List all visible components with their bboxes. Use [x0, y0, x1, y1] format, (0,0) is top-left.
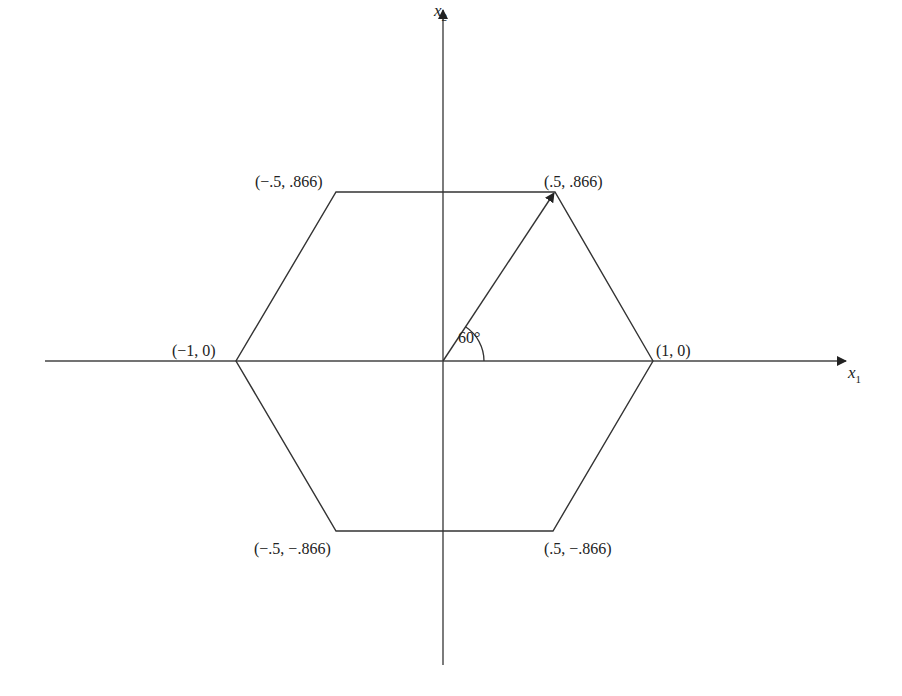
- vertex-label-05-0866: (.5, .866): [544, 173, 603, 191]
- vertex-label-neg05-0866: (−.5, .866): [255, 173, 323, 191]
- vertex-label-neg05-neg0866: (−.5, −.866): [254, 540, 331, 558]
- y-axis-label: x2: [433, 1, 447, 23]
- vertex-label-1-0: (1, 0): [656, 342, 691, 360]
- vertex-label-neg1-0: (−1, 0): [172, 342, 216, 360]
- hexagon-diagram: 60° x1 x2 (1, 0) (.5, .866) (−.5, .866) …: [0, 0, 902, 696]
- angle-label: 60°: [458, 329, 480, 346]
- x-axis-label: x1: [847, 363, 861, 385]
- vertex-label-05-neg0866: (.5, −.866): [544, 540, 612, 558]
